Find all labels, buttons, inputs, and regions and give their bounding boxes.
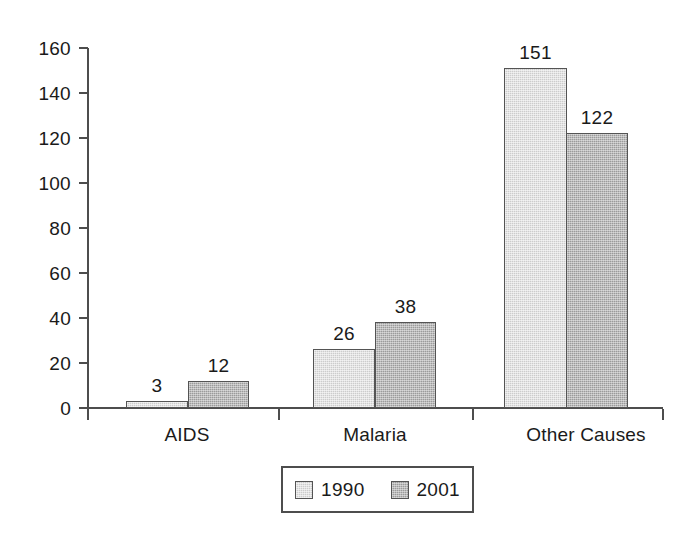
y-axis-tick bbox=[79, 47, 88, 49]
bar-2001-aids[interactable] bbox=[188, 381, 249, 408]
bar-value-1990-aids: 3 bbox=[126, 376, 188, 395]
x-axis-label-aids: AIDS bbox=[117, 424, 257, 446]
bar-1990-malaria[interactable] bbox=[313, 349, 375, 408]
y-axis-tick bbox=[79, 362, 88, 364]
y-axis-tick-label: 80 bbox=[11, 219, 71, 238]
bar-value-1990-malaria: 26 bbox=[313, 324, 375, 343]
bar-value-2001-other-causes: 122 bbox=[566, 108, 628, 127]
y-axis-tick bbox=[79, 317, 88, 319]
x-axis-tick bbox=[662, 409, 664, 420]
bar-1990-other-causes[interactable] bbox=[504, 68, 567, 408]
bar-2001-malaria[interactable] bbox=[375, 322, 436, 408]
y-axis-tick bbox=[79, 182, 88, 184]
bar-2001-other-causes[interactable] bbox=[566, 133, 628, 408]
bar-1990-aids[interactable] bbox=[126, 401, 188, 408]
x-axis-label-other-causes: Other Causes bbox=[496, 424, 676, 446]
y-axis-tick bbox=[79, 92, 88, 94]
bar-value-1990-other-causes: 151 bbox=[504, 43, 567, 62]
bar-value-2001-aids: 12 bbox=[188, 356, 249, 375]
legend-item-2001[interactable]: 2001 bbox=[391, 480, 460, 499]
legend-item-1990[interactable]: 1990 bbox=[295, 480, 364, 499]
y-axis-tick-label: 20 bbox=[11, 354, 71, 373]
x-axis-label-malaria: Malaria bbox=[305, 424, 445, 446]
x-axis-tick bbox=[472, 409, 474, 420]
y-axis-tick-label: 40 bbox=[11, 309, 71, 328]
bar-chart: 160 140 120 100 80 60 40 20 0 3 12 26 38… bbox=[0, 0, 693, 556]
legend-label-2001: 2001 bbox=[417, 480, 460, 499]
y-axis-tick-label: 160 bbox=[11, 39, 71, 58]
y-axis-tick-label: 120 bbox=[11, 129, 71, 148]
x-axis-tick bbox=[87, 409, 89, 420]
legend-swatch-icon-2001 bbox=[391, 481, 409, 499]
y-axis-tick bbox=[79, 137, 88, 139]
chart-legend: 1990 2001 bbox=[281, 466, 474, 513]
y-axis-tick-label: 100 bbox=[11, 174, 71, 193]
bar-value-2001-malaria: 38 bbox=[375, 297, 436, 316]
legend-swatch-icon-1990 bbox=[295, 481, 313, 499]
y-axis-tick bbox=[79, 272, 88, 274]
y-axis-tick-label: 140 bbox=[11, 84, 71, 103]
y-axis-tick bbox=[79, 227, 88, 229]
y-axis-tick-label: 0 bbox=[11, 399, 71, 418]
x-axis-tick bbox=[278, 409, 280, 420]
legend-label-1990: 1990 bbox=[321, 480, 364, 499]
y-axis-tick-label: 60 bbox=[11, 264, 71, 283]
